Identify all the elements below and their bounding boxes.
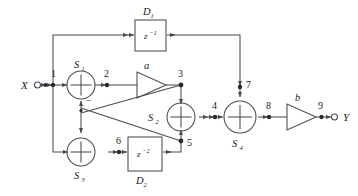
summer-label-s1-sub: 1	[82, 65, 85, 72]
node-label-8: 8	[266, 100, 271, 111]
delay-label-d2: D 2	[135, 175, 148, 188]
delay-transfer-d1-base: z	[143, 31, 148, 41]
summer-label-s3-sub: 3	[81, 176, 86, 183]
wire-diagonal-to-node5	[81, 108, 181, 141]
summer-label-s2: S 2	[148, 112, 160, 125]
node-label-3: 3	[178, 68, 183, 79]
node-dot-5	[179, 139, 184, 144]
gain-label-b: b	[295, 92, 300, 103]
delay-transfer-d1-exp: −1	[149, 29, 157, 36]
node-dot-8	[267, 115, 271, 119]
delay-label-d2-sub: 2	[144, 181, 148, 188]
summer-label-s2-sub: 2	[156, 118, 160, 125]
node-label-7: 7	[246, 79, 251, 90]
node-label-5: 5	[187, 137, 192, 148]
summer-label-s1: S 1	[74, 59, 85, 72]
wire-node1-up-to-d1	[53, 35, 134, 85]
node-label-2: 2	[104, 68, 109, 79]
input-terminal-circle	[35, 82, 41, 88]
node-dot-4	[213, 115, 217, 119]
summer-s4-circle	[224, 101, 256, 133]
output-terminal-circle	[332, 114, 338, 120]
output-label: Y	[343, 111, 351, 123]
summer-label-s4-sub: 4	[240, 144, 244, 151]
node-label-4: 4	[212, 100, 217, 111]
diagram-canvas: X Y 1 2 3 4 5 6 7 8 9 S 1 S 2 S 3	[0, 0, 358, 196]
delay-transfer-d2-exp: −2	[142, 147, 150, 154]
node-dot-9	[319, 115, 323, 119]
node-dot-1	[51, 83, 55, 87]
summer-label-s1-name: S	[74, 59, 80, 70]
summer-label-s3-name: S	[74, 170, 80, 181]
delay-transfer-d2-base: z	[136, 149, 141, 159]
delay-transfer-d2: z −2	[136, 147, 150, 160]
signal-flow-diagram: X Y 1 2 3 4 5 6 7 8 9 S 1 S 2 S 3	[0, 0, 358, 196]
gain-b-triangle	[287, 104, 316, 130]
delay-label-d1: D 1	[142, 6, 154, 19]
node-label-9: 9	[318, 100, 323, 111]
summer-label-s3: S 3	[74, 170, 86, 183]
node-dot-6	[117, 150, 121, 154]
wire-diagonal-to-node3	[81, 85, 181, 113]
wire-d2-to-node5	[163, 142, 181, 152]
node-dot-3	[179, 83, 184, 88]
summer-s1-minus-sign: −	[86, 95, 92, 106]
summer-label-s4: S 4	[232, 138, 244, 151]
node-dot-x-lead	[44, 83, 48, 87]
summer-label-s2-name: S	[148, 112, 154, 123]
summer-label-s4-name: S	[232, 138, 238, 149]
summer-s2-circle	[167, 103, 195, 131]
input-label: X	[20, 79, 29, 91]
node-dot-7	[238, 85, 242, 89]
delay-transfer-d1: z −1	[143, 29, 157, 42]
gain-label-a: a	[144, 60, 149, 71]
delay-label-d1-sub: 1	[151, 12, 154, 19]
node-label-6: 6	[116, 135, 121, 146]
wire-node1-down-to-s3	[53, 85, 68, 152]
gain-a-triangle	[137, 72, 166, 98]
delay-block-d2-box	[128, 137, 162, 171]
summer-s3-circle	[67, 138, 95, 166]
node-label-1: 1	[51, 68, 56, 79]
node-dot-2	[105, 83, 109, 87]
junction-dot-feedback	[79, 109, 82, 112]
delay-block-d1-box	[135, 20, 166, 51]
